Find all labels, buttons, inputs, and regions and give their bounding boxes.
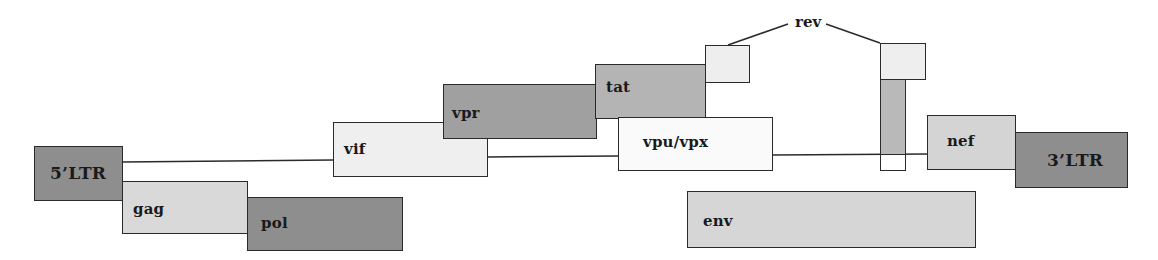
rev-label: rev bbox=[795, 13, 821, 31]
gene-label-tat: tat bbox=[606, 78, 630, 96]
gene-box-rev2 bbox=[880, 43, 926, 80]
gene-label-gag: gag bbox=[133, 200, 164, 218]
gene-label-vpr: vpr bbox=[452, 104, 480, 122]
gene-box-nef: nef bbox=[927, 115, 1016, 170]
gene-box-rev2_tail bbox=[880, 154, 906, 171]
gene-box-env: env bbox=[687, 191, 976, 248]
gene-label-nef: nef bbox=[947, 132, 975, 150]
connector-line-0 bbox=[122, 160, 333, 162]
gene-label-pol: pol bbox=[261, 214, 288, 232]
gene-box-rev2_bar bbox=[880, 79, 906, 155]
gene-box-gag: gag bbox=[122, 181, 248, 234]
rev-leader-line-1 bbox=[826, 24, 880, 43]
gene-box-vpr: vpr bbox=[443, 84, 597, 139]
gene-label-env: env bbox=[703, 212, 733, 230]
gene-label-ltr3: 3’LTR bbox=[1047, 150, 1103, 170]
gene-box-ltr3: 3’LTR bbox=[1015, 132, 1128, 188]
gene-box-pol: pol bbox=[247, 197, 403, 251]
gene-label-ltr5: 5’LTR bbox=[50, 163, 106, 183]
gene-box-rev1 bbox=[705, 45, 750, 83]
connector-line-1 bbox=[488, 156, 618, 157]
gene-box-ltr5: 5’LTR bbox=[34, 146, 123, 201]
gene-box-tat: tat bbox=[595, 64, 706, 119]
gene-box-vpu: vpu/vpx bbox=[618, 117, 773, 171]
hiv-genome-diagram: 5’LTRgagpolvifvprtatvpu/vpxnef3’LTRenv r… bbox=[0, 0, 1158, 260]
gene-label-vif: vif bbox=[344, 140, 365, 158]
rev-leader-line-0 bbox=[728, 24, 788, 45]
gene-label-vpu: vpu/vpx bbox=[643, 133, 708, 151]
